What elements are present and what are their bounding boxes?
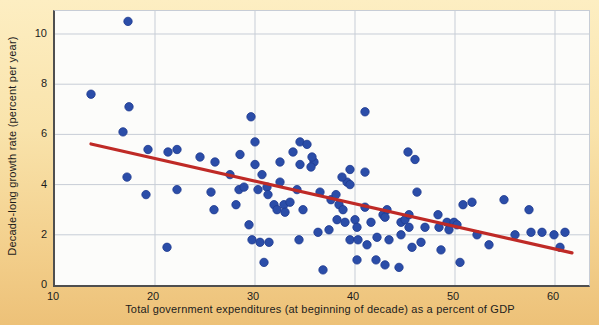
x-tick-label: 40 [338, 291, 368, 302]
scatter-point [307, 163, 315, 171]
scatter-point [338, 173, 346, 181]
scatter-point [561, 228, 569, 236]
scatter-point [173, 145, 181, 153]
scatter-point [437, 246, 445, 254]
scatter-point [260, 258, 268, 266]
scatter-point [346, 180, 354, 188]
scatter-point [286, 198, 294, 206]
scatter-point [346, 236, 354, 244]
scatter-point [456, 258, 464, 266]
scatter-point [421, 223, 429, 231]
scatter-point [173, 185, 181, 193]
scatter-point [405, 223, 413, 231]
y-axis-title: Decade-long growth rate (percent per yea… [6, 6, 18, 286]
scatter-point [363, 241, 371, 249]
scatter-point [264, 190, 272, 198]
scatter-point [254, 185, 262, 193]
scatter-point [485, 241, 493, 249]
scatter-point [296, 160, 304, 168]
scatter-point [289, 148, 297, 156]
scatter-point [163, 243, 171, 251]
scatter-point [361, 108, 369, 116]
x-axis-title: Total government expenditures (at beginn… [53, 303, 587, 315]
y-tick-label: 10 [17, 28, 47, 39]
scatter-point [196, 153, 204, 161]
scatter-point [525, 206, 533, 214]
scatter-point [353, 256, 361, 264]
scatter-point [408, 243, 416, 251]
scatter-point [417, 238, 425, 246]
scatter-point [245, 221, 253, 229]
scatter-point [308, 153, 316, 161]
scatter-point [299, 206, 307, 214]
scatter-point [124, 17, 132, 25]
scatter-point [395, 263, 403, 271]
y-tick-label: 2 [17, 229, 47, 240]
scatter-point [232, 201, 240, 209]
scatter-point [295, 236, 303, 244]
scatter-point [527, 228, 535, 236]
scatter-point [381, 261, 389, 269]
x-tick-label: 50 [438, 291, 468, 302]
scatter-point [459, 201, 467, 209]
scatter-point [411, 155, 419, 163]
scatter-point [248, 236, 256, 244]
scatter-point [276, 158, 284, 166]
scatter-point [123, 173, 131, 181]
scatter-chart-figure: Decade-long growth rate (percent per yea… [0, 0, 599, 325]
x-tick-label: 10 [38, 291, 68, 302]
scatter-point [281, 208, 289, 216]
scatter-point [207, 188, 215, 196]
x-tick-label: 30 [238, 291, 268, 302]
scatter-point [236, 150, 244, 158]
scatter-point [142, 190, 150, 198]
scatter-point [538, 228, 546, 236]
scatter-point [373, 233, 381, 241]
scatter-point [333, 216, 341, 224]
y-tick-label: 4 [17, 179, 47, 190]
scatter-point [354, 236, 362, 244]
scatter-point [339, 206, 347, 214]
scatter-point [256, 238, 264, 246]
scatter-point [353, 223, 361, 231]
scatter-point [341, 218, 349, 226]
scatter-point [367, 218, 375, 226]
scatter-point [247, 113, 255, 121]
y-tick-label: 6 [17, 128, 47, 139]
x-tick-label: 20 [138, 291, 168, 302]
scatter-point [361, 168, 369, 176]
scatter-point [210, 206, 218, 214]
y-tick-label: 8 [17, 78, 47, 89]
plot-area [53, 10, 590, 287]
scatter-point [381, 213, 389, 221]
scatter-point [372, 256, 380, 264]
scatter-point [325, 226, 333, 234]
scatter-point [240, 183, 248, 191]
scatter-point [351, 216, 359, 224]
scatter-point [500, 196, 508, 204]
scatter-point [119, 128, 127, 136]
scatter-point [251, 138, 259, 146]
scatter-point [87, 90, 95, 98]
scatter-point [251, 160, 259, 168]
scatter-point [144, 145, 152, 153]
scatter-point [265, 238, 273, 246]
y-tick-label: 0 [17, 279, 47, 290]
scatter-point [413, 188, 421, 196]
x-tick-label: 60 [538, 291, 568, 302]
scatter-point [468, 198, 476, 206]
scatter-plot-canvas [55, 11, 589, 285]
scatter-point [550, 231, 558, 239]
scatter-point [385, 236, 393, 244]
scatter-point [211, 158, 219, 166]
scatter-point [125, 103, 133, 111]
scatter-point [314, 228, 322, 236]
scatter-point [164, 148, 172, 156]
scatter-point [397, 231, 405, 239]
scatter-point [346, 165, 354, 173]
scatter-point [319, 266, 327, 274]
scatter-point [404, 148, 412, 156]
scatter-point [434, 211, 442, 219]
scatter-point [303, 140, 311, 148]
scatter-point [258, 170, 266, 178]
